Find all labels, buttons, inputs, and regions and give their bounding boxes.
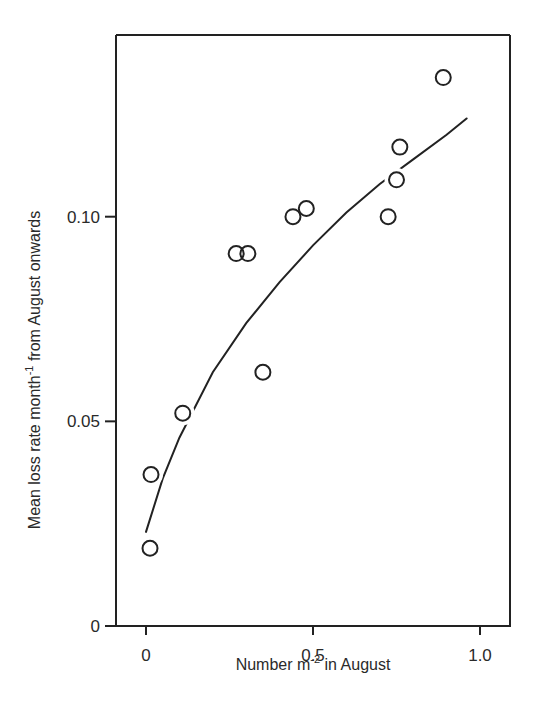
axis-ticks: 00.51.000.050.10 <box>67 208 492 665</box>
y-tick-label: 0.05 <box>67 412 100 431</box>
x-tick-label: 0 <box>141 646 150 665</box>
data-points <box>138 66 455 561</box>
y-tick-label: 0.10 <box>67 208 100 227</box>
fitted-curve <box>146 119 467 532</box>
y-axis-label: Mean loss rate month-1 from August onwar… <box>23 211 43 529</box>
x-tick-label: 1.0 <box>468 646 492 665</box>
x-axis-label: Number m-2 in August <box>236 653 391 673</box>
y-tick-label: 0 <box>91 617 100 636</box>
scatter-chart: 00.51.000.050.10 Number m-2 in August Me… <box>0 0 534 726</box>
plot-frame <box>106 35 511 626</box>
